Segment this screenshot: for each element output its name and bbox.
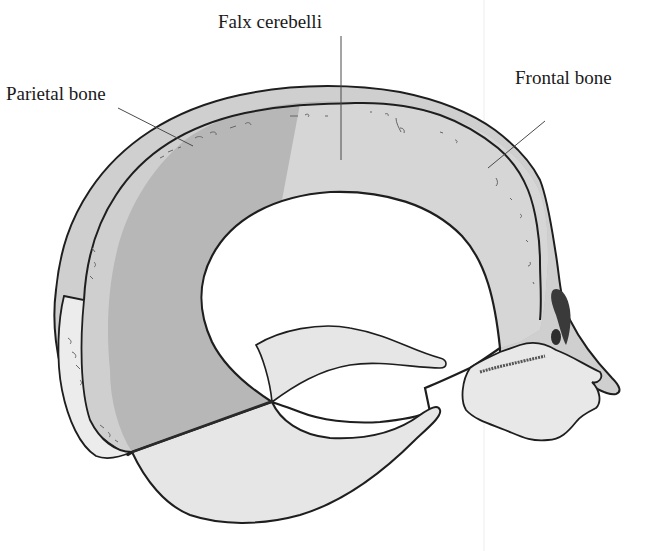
label-parietal-bone: Parietal bone [6,84,106,103]
label-falx-cerebelli: Falx cerebelli [218,12,322,31]
frontal-sinus-small [551,329,561,345]
label-frontal-bone: Frontal bone [515,68,612,87]
